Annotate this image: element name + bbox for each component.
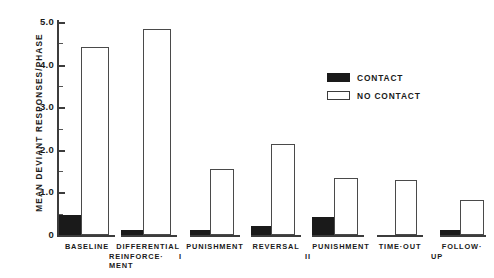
x-axis-baseline-segment: [59, 235, 115, 237]
bar-group: [377, 20, 423, 237]
x-axis-label: FOLLOW·UP: [431, 242, 493, 261]
bar-group: [59, 20, 115, 237]
bar-no-contact: [210, 169, 234, 235]
x-axis-label-line: DIFFERENTIAL: [109, 242, 187, 252]
bar-contact: [121, 230, 143, 235]
legend-label: NO CONTACT: [357, 91, 421, 101]
x-axis-baseline-segment: [377, 235, 423, 237]
x-axis-label-line: FOLLOW·: [431, 242, 493, 252]
x-axis-label-line: PUNISHMENT: [305, 242, 377, 252]
x-axis-baseline-segment: [121, 235, 177, 237]
bar-contact: [59, 215, 81, 235]
bar-chart-figure: MEAN DEVIANT RESPONSES/PHASE 5.04.03.02.…: [0, 0, 494, 278]
y-tick-label: 4.0: [20, 59, 54, 70]
bar-group: [121, 20, 177, 237]
x-axis-baseline-segment: [251, 235, 301, 237]
legend-swatch-filled: [327, 73, 350, 82]
legend-item: NO CONTACT: [327, 88, 421, 103]
y-tick-label: 5.0: [20, 16, 54, 27]
bar-group: [251, 20, 301, 237]
x-axis-label-line: II: [305, 252, 377, 262]
y-tick-label: 1.0: [20, 186, 54, 197]
chart-legend: CONTACTNO CONTACT: [327, 70, 421, 106]
bar-no-contact: [271, 144, 295, 235]
x-axis-label-line: PUNISHMENT: [179, 242, 251, 252]
bar-group: [312, 20, 364, 237]
bar-no-contact: [460, 200, 484, 235]
bar-group: [440, 20, 486, 237]
bar-no-contact: [395, 180, 417, 235]
x-axis-label-line: REINFORCE·: [109, 252, 187, 262]
x-axis-label: TIME·OUT: [369, 242, 431, 252]
x-axis-baseline-segment: [312, 235, 364, 237]
bar-group: [190, 20, 240, 237]
bar-contact: [190, 230, 210, 235]
x-axis-label: DIFFERENTIALREINFORCE·MENT: [109, 242, 187, 271]
bar-contact: [440, 230, 460, 235]
bar-contact: [312, 217, 334, 235]
y-tick-label: 0: [20, 229, 54, 240]
x-axis-baseline-segment: [190, 235, 240, 237]
y-tick-label: 2.0: [20, 144, 54, 155]
x-axis-label-line: TIME·OUT: [369, 242, 431, 252]
x-axis-label-line: I: [179, 252, 251, 262]
plot-area: [59, 20, 484, 237]
x-axis-label: PUNISHMENTII: [305, 242, 377, 261]
x-axis-label-line: MENT: [109, 261, 187, 271]
bar-contact: [251, 226, 271, 235]
legend-swatch-hollow: [327, 91, 350, 100]
bar-no-contact: [334, 178, 358, 235]
x-axis-label-line: REVERSAL: [243, 242, 309, 252]
x-axis-label-line: UP: [431, 252, 493, 262]
bar-no-contact: [143, 29, 171, 235]
y-tick-label: 3.0: [20, 101, 54, 112]
legend-item: CONTACT: [327, 70, 421, 85]
x-axis-label: PUNISHMENTI: [179, 242, 251, 261]
bar-no-contact: [81, 47, 109, 235]
x-axis-labels: BASELINEDIFFERENTIALREINFORCE·MENTPUNISH…: [59, 242, 494, 278]
x-axis-baseline-segment: [440, 235, 486, 237]
x-axis-label: REVERSAL: [243, 242, 309, 252]
legend-label: CONTACT: [357, 73, 403, 83]
